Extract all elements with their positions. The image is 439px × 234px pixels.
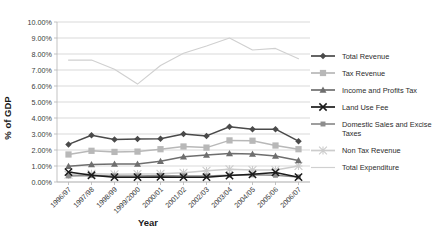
data-marker bbox=[65, 141, 72, 148]
series-line bbox=[69, 38, 299, 84]
data-marker bbox=[295, 138, 302, 145]
y-tick-label: 5.00% bbox=[32, 98, 53, 107]
data-marker bbox=[88, 132, 95, 139]
data-marker bbox=[203, 133, 210, 140]
y-tick-label: 9.00% bbox=[32, 34, 53, 43]
legend-item-income-and-profits-tax[interactable]: Income and Profits Tax bbox=[311, 86, 417, 95]
x-tick-label: 2004/05 bbox=[232, 185, 257, 210]
y-axis-ticks: 0.00%1.00%2.00%3.00%4.00%5.00%6.00%7.00%… bbox=[28, 18, 57, 187]
data-marker bbox=[320, 70, 326, 76]
data-marker bbox=[295, 146, 301, 152]
x-tick-label: 2002/03 bbox=[186, 185, 211, 210]
y-tick-label: 10.00% bbox=[28, 18, 53, 27]
legend-label: Total Revenue bbox=[342, 52, 389, 61]
legend-label: Domestic Sales and Excise bbox=[342, 120, 432, 129]
x-tick-label: 2000/01 bbox=[140, 185, 165, 210]
data-marker bbox=[111, 149, 117, 155]
x-tick-label: 2005/06 bbox=[255, 185, 280, 210]
data-marker bbox=[319, 147, 327, 155]
data-marker bbox=[134, 136, 141, 143]
legend-label-wrap: Taxes bbox=[342, 129, 362, 138]
x-tick-label: 1996/97 bbox=[48, 185, 73, 210]
legend-label: Tax Revenue bbox=[342, 69, 385, 78]
legend-item-total-expenditure[interactable]: Total Expenditure bbox=[311, 163, 399, 172]
legend-label: Land Use Fee bbox=[342, 103, 388, 112]
data-marker bbox=[134, 148, 140, 154]
y-tick-label: 2.00% bbox=[32, 146, 53, 155]
data-marker bbox=[157, 136, 164, 143]
legend-label: Non Tax Revenue bbox=[342, 146, 401, 155]
line-chart: 0.00%1.00%2.00%3.00%4.00%5.00%6.00%7.00%… bbox=[0, 0, 439, 234]
x-axis-title-text: Year bbox=[138, 217, 158, 228]
data-marker bbox=[226, 137, 232, 143]
data-marker bbox=[249, 126, 256, 133]
x-tick-label: 2006/07 bbox=[278, 185, 303, 210]
x-axis-title: Year bbox=[138, 217, 158, 228]
legend-item-total-revenue[interactable]: Total Revenue bbox=[311, 52, 389, 61]
data-marker bbox=[180, 143, 186, 149]
y-tick-label: 7.00% bbox=[32, 66, 53, 75]
legend-item-domestic-sales-and-excise-taxes[interactable]: Domestic Sales and ExciseTaxes bbox=[311, 120, 432, 139]
data-marker bbox=[226, 124, 233, 131]
y-axis-title-text: % of GDP bbox=[2, 96, 13, 140]
data-marker bbox=[320, 53, 327, 60]
data-marker bbox=[295, 162, 303, 170]
series-total-expenditure bbox=[69, 38, 299, 84]
legend-item-non-tax-revenue[interactable]: Non Tax Revenue bbox=[311, 146, 401, 155]
plot-area bbox=[65, 38, 303, 181]
data-marker bbox=[111, 136, 118, 143]
y-tick-label: 4.00% bbox=[32, 114, 53, 123]
chart-legend: Total RevenueTax RevenueIncome and Profi… bbox=[311, 52, 432, 173]
x-tick-label: 2003/04 bbox=[209, 185, 234, 210]
data-marker bbox=[88, 148, 94, 154]
data-marker bbox=[157, 146, 163, 152]
x-axis-ticks: 1996/971997/981998/991999/20002000/01200… bbox=[48, 182, 303, 215]
y-tick-label: 3.00% bbox=[32, 130, 53, 139]
y-tick-label: 1.00% bbox=[32, 162, 53, 171]
x-tick-label: 1997/98 bbox=[71, 185, 96, 210]
data-marker bbox=[321, 122, 326, 127]
y-tick-label: 6.00% bbox=[32, 82, 53, 91]
legend-item-land-use-fee[interactable]: Land Use Fee bbox=[311, 103, 388, 112]
data-marker bbox=[272, 142, 278, 148]
y-tick-label: 0.00% bbox=[32, 178, 53, 187]
data-marker bbox=[65, 151, 71, 157]
legend-item-tax-revenue[interactable]: Tax Revenue bbox=[311, 69, 385, 78]
legend-label: Total Expenditure bbox=[342, 163, 399, 172]
data-marker bbox=[180, 131, 187, 138]
chart-container: 0.00%1.00%2.00%3.00%4.00%5.00%6.00%7.00%… bbox=[0, 0, 439, 234]
x-tick-label: 2001/02 bbox=[163, 185, 188, 210]
y-tick-label: 8.00% bbox=[32, 50, 53, 59]
data-marker bbox=[203, 144, 209, 150]
data-marker bbox=[272, 126, 279, 133]
data-marker bbox=[249, 138, 255, 144]
legend-label: Income and Profits Tax bbox=[342, 86, 417, 95]
y-axis-title: % of GDP bbox=[2, 96, 13, 140]
